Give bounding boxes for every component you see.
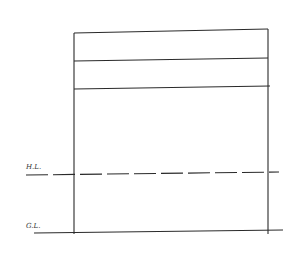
perspective-diagram: H.L. G.L.: [0, 0, 299, 254]
third-horizontal-line: [74, 86, 270, 89]
box-outline: [74, 29, 270, 234]
ground-line-label: G.L.: [26, 222, 40, 230]
horizon-line-label: H.L.: [25, 163, 41, 171]
ground-line: [34, 230, 283, 233]
top-edge: [74, 29, 268, 33]
second-horizontal-line: [74, 58, 268, 61]
horizon-line: [26, 172, 279, 175]
